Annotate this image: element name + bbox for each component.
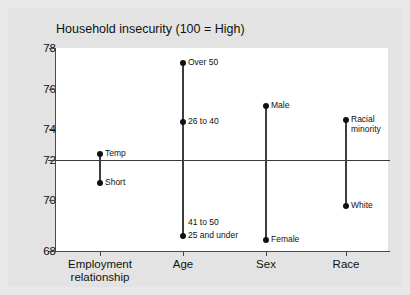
data-label-male: Male [271, 101, 289, 111]
data-label-short: Short [105, 178, 125, 188]
x-axis-label-race: Race [333, 258, 360, 271]
data-label-female: Female [271, 235, 299, 245]
x-axis-label-employment-relationship: Employment relationship [68, 258, 132, 284]
data-label-temp: Temp [105, 149, 126, 159]
connector-sex [265, 106, 267, 240]
data-point-26-to-40[interactable] [180, 119, 186, 125]
connector-race [345, 120, 347, 206]
data-point-over-50[interactable] [180, 60, 186, 66]
y-tick-mark-70 [49, 200, 56, 201]
y-tick-mark-76 [49, 89, 56, 90]
chart-canvas: Household insecurity (100 = High) 78 76 … [8, 8, 402, 287]
x-axis-label-sex: Sex [256, 258, 276, 271]
connector-age [182, 63, 184, 236]
data-point-male[interactable] [263, 103, 269, 109]
connector-employment [99, 154, 101, 183]
x-tick-mark-race [346, 251, 347, 256]
data-label-over-50: Over 50 [188, 58, 218, 68]
x-tick-mark-employment [100, 251, 101, 256]
data-label-racial-minority: Racial minority [351, 115, 381, 134]
data-label-25-and-under: 25 and under [188, 231, 238, 241]
y-tick-mark-78 [49, 48, 56, 49]
y-axis-line [55, 48, 56, 252]
data-point-white[interactable] [343, 203, 349, 209]
x-axis-label-age: Age [173, 258, 193, 271]
data-point-25-and-under[interactable] [180, 233, 186, 239]
y-tick-mark-68 [49, 251, 56, 252]
page-title: Household insecurity (100 = High) [56, 22, 245, 36]
y-tick-mark-74 [49, 129, 56, 130]
figure-container: Household insecurity (100 = High) 78 76 … [0, 0, 410, 295]
data-point-racial-minority[interactable] [343, 117, 349, 123]
x-tick-mark-age [183, 251, 184, 256]
data-label-41-to-50: 41 to 50 [188, 218, 219, 228]
data-label-white: White [351, 201, 373, 211]
data-point-female[interactable] [263, 237, 269, 243]
data-point-short[interactable] [97, 180, 103, 186]
data-point-temp[interactable] [97, 151, 103, 157]
x-tick-mark-sex [266, 251, 267, 256]
data-label-26-to-40: 26 to 40 [188, 117, 219, 127]
